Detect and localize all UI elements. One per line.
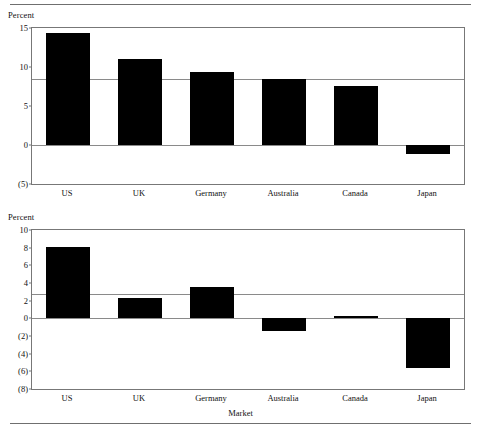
y-tick-mark	[29, 336, 32, 337]
zero-baseline	[32, 145, 464, 146]
bar	[406, 145, 451, 154]
zero-baseline	[32, 318, 464, 319]
y-tick-mark	[29, 371, 32, 372]
x-axis-labels-bottom: USUKGermanyAustraliaCanadaJapan	[31, 393, 465, 407]
y-tick-label: 6	[24, 260, 28, 270]
y-tick-label: (5)	[18, 179, 28, 189]
y-tick-mark	[29, 247, 32, 248]
chart-panel-top: Percent 151050(5) USUKGermanyAustraliaCa…	[0, 10, 481, 206]
x-tick-label: US	[62, 393, 73, 403]
y-tick-mark	[29, 230, 32, 231]
bar	[262, 79, 307, 145]
x-tick-label: Germany	[195, 188, 227, 198]
y-tick-mark	[29, 353, 32, 354]
y-tick-mark	[29, 184, 32, 185]
bottom-horizontal-rule	[10, 423, 471, 424]
y-tick-label: (8)	[18, 384, 28, 394]
x-tick-label: UK	[133, 393, 145, 403]
y-tick-label: (4)	[18, 349, 28, 359]
chart-panel-bottom: Percent 1086420(2)(4)(6)(8) USUKGermanyA…	[0, 212, 481, 418]
x-tick-label: Australia	[267, 188, 298, 198]
y-tick-mark	[29, 389, 32, 390]
top-horizontal-rule	[10, 4, 471, 5]
y-tick-label: 0	[24, 140, 28, 150]
x-tick-label: Germany	[195, 393, 227, 403]
y-tick-label: 0	[24, 313, 28, 323]
y-tick-label: (2)	[18, 331, 28, 341]
x-axis-labels-top: USUKGermanyAustraliaCanadaJapan	[31, 188, 465, 202]
y-axis-title-top: Percent	[8, 10, 34, 20]
y-tick-mark	[29, 106, 32, 107]
y-tick-label: 5	[24, 101, 28, 111]
y-axis-title-bottom: Percent	[8, 212, 34, 222]
y-tick-label: 10	[20, 62, 29, 72]
x-tick-label: Australia	[267, 393, 298, 403]
average-reference-line	[32, 294, 464, 295]
y-tick-mark	[29, 28, 32, 29]
y-tick-mark	[29, 265, 32, 266]
bar	[118, 59, 163, 145]
bar	[118, 298, 163, 318]
bar	[46, 247, 91, 319]
bar	[262, 318, 307, 330]
bar	[190, 287, 235, 318]
bar	[46, 33, 91, 145]
y-tick-label: 2	[24, 296, 28, 306]
y-tick-label: 10	[20, 225, 29, 235]
average-reference-line	[32, 79, 464, 80]
x-tick-label: Japan	[417, 393, 436, 403]
x-axis-title: Market	[0, 408, 481, 418]
x-tick-label: Japan	[417, 188, 436, 198]
y-tick-mark	[29, 300, 32, 301]
plot-area-bottom: 1086420(2)(4)(6)(8)	[31, 229, 465, 390]
x-tick-label: Canada	[342, 393, 368, 403]
y-tick-label: 4	[24, 278, 28, 288]
y-tick-mark	[29, 67, 32, 68]
bar	[406, 318, 451, 367]
x-tick-label: US	[62, 188, 73, 198]
bar	[190, 72, 235, 145]
bar	[334, 86, 379, 145]
x-tick-label: UK	[133, 188, 145, 198]
x-tick-label: Canada	[342, 188, 368, 198]
y-tick-label: 8	[24, 243, 28, 253]
y-tick-label: (6)	[18, 366, 28, 376]
plot-area-top: 151050(5)	[31, 27, 465, 185]
bar	[334, 316, 379, 319]
y-tick-label: 15	[20, 23, 29, 33]
y-tick-mark	[29, 283, 32, 284]
